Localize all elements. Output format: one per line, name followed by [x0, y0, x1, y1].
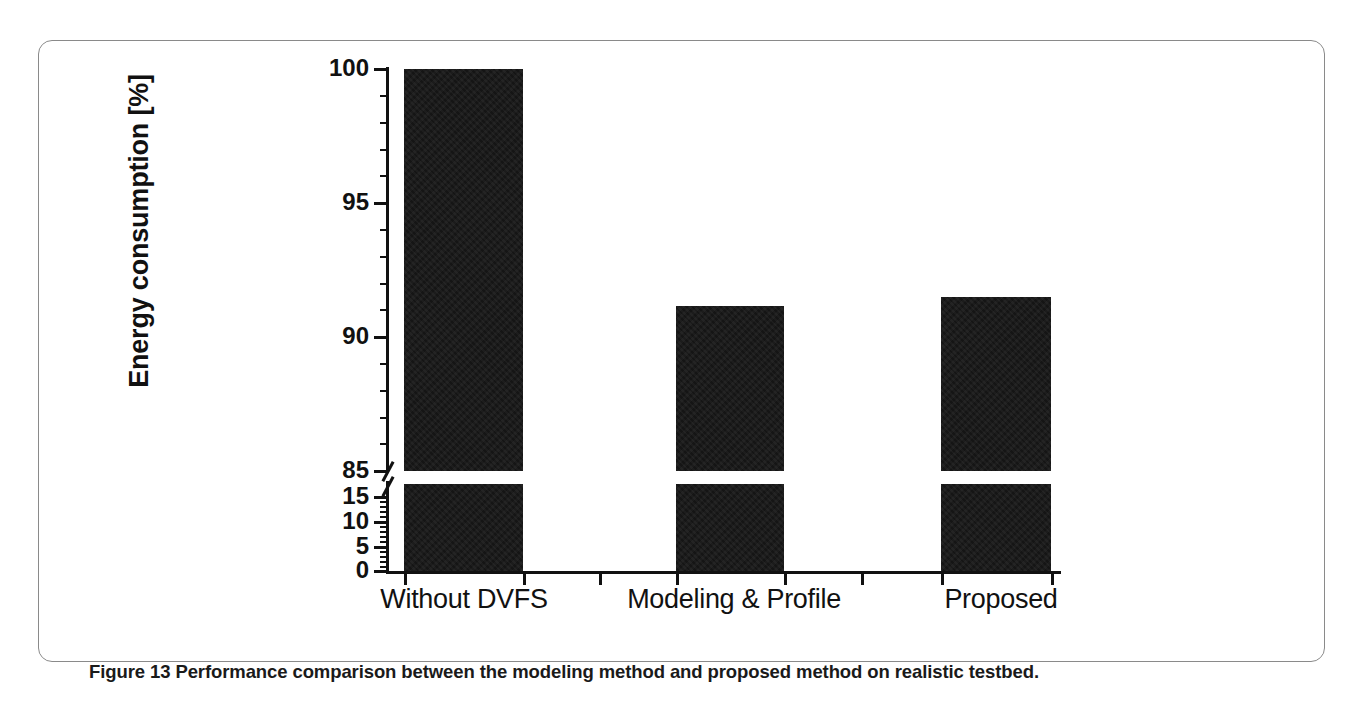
y-tick-minor-86 — [380, 443, 388, 445]
y-tick-minor-96 — [380, 175, 388, 177]
y-tick-minor-88 — [380, 390, 388, 392]
y-tick-minor-8 — [380, 531, 388, 533]
y-tick-label-0: 0 — [309, 558, 369, 582]
axis-break-band — [389, 471, 1069, 484]
y-tick-minor-1 — [380, 566, 388, 568]
bar-modeling-profile — [676, 306, 784, 572]
y-tick-100 — [374, 68, 388, 71]
y-tick-label-15: 15 — [309, 484, 369, 508]
chart-plot-area: Energy consumption [%] 100 95 90 85 — [39, 41, 1326, 663]
y-tick-90 — [374, 336, 388, 339]
y-tick-minor-94 — [380, 229, 388, 231]
y-tick-minor-97 — [380, 149, 388, 151]
figure-caption-text: Performance comparison between the model… — [175, 661, 1039, 682]
y-tick-label-10: 10 — [309, 509, 369, 533]
y-tick-minor-99 — [380, 95, 388, 97]
y-tick-minor-9 — [380, 526, 388, 528]
y-tick-label-95: 95 — [309, 190, 369, 214]
y-tick-minor-87 — [380, 417, 388, 419]
y-tick-minor-92 — [380, 283, 388, 285]
y-tick-minor-91 — [380, 309, 388, 311]
x-axis-label-proposed: Proposed — [901, 584, 1101, 615]
figure-caption-label: Figure 13 — [89, 661, 170, 682]
y-tick-minor-12 — [380, 511, 388, 513]
y-tick-label-100: 100 — [309, 56, 369, 80]
y-tick-95 — [374, 202, 388, 205]
x-axis-line — [386, 571, 1061, 574]
x-tick-2 — [599, 573, 602, 585]
figure-frame: Energy consumption [%] 100 95 90 85 — [38, 40, 1325, 662]
y-tick-minor-7 — [380, 536, 388, 538]
bar-proposed — [941, 297, 1051, 572]
y-tick-minor-13 — [380, 506, 388, 508]
x-axis-label-modeling-profile: Modeling & Profile — [609, 584, 859, 615]
bar-without-dvfs — [404, 69, 523, 572]
y-tick-15 — [374, 496, 388, 499]
y-tick-label-85: 85 — [309, 458, 369, 482]
y-tick-10 — [374, 521, 388, 524]
figure-caption: Figure 13 Performance comparison between… — [89, 661, 1319, 683]
y-tick-minor-93 — [380, 256, 388, 258]
y-tick-label-90: 90 — [309, 324, 369, 348]
y-tick-minor-4 — [380, 551, 388, 553]
y-axis-label: Energy consumption [%] — [124, 71, 164, 391]
y-tick-minor-2 — [380, 561, 388, 563]
y-tick-minor-98 — [380, 122, 388, 124]
y-tick-minor-11 — [380, 516, 388, 518]
y-tick-minor-6 — [380, 541, 388, 543]
x-tick-5 — [861, 573, 864, 585]
x-axis-label-without-dvfs: Without DVFS — [364, 584, 564, 615]
y-tick-5 — [374, 546, 388, 549]
y-axis-line-upper — [386, 67, 389, 473]
y-tick-minor-3 — [380, 556, 388, 558]
y-tick-minor-89 — [380, 363, 388, 365]
y-tick-minor-14 — [380, 501, 388, 503]
y-tick-label-5: 5 — [309, 534, 369, 558]
